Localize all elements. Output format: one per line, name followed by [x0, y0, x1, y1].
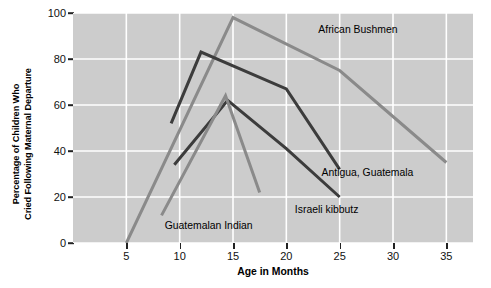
- x-axis-tick-mark: [340, 243, 342, 249]
- y-axis-tick-label: 40: [40, 145, 66, 157]
- vertical-gridlines: [126, 13, 446, 243]
- horizontal-gridlines: [73, 13, 473, 243]
- plot-svg: [73, 13, 473, 243]
- y-axis-tick-label: 0: [40, 237, 66, 249]
- y-axis-tick-label: 60: [40, 99, 66, 111]
- y-axis-tick-label: 80: [40, 53, 66, 65]
- x-axis-tick-mark: [286, 243, 288, 249]
- series-label: Guatemalan Indian: [165, 220, 253, 231]
- y-axis-title-line-1: Percentage of Children Who: [11, 68, 23, 220]
- x-axis-tick-label: 10: [165, 250, 195, 262]
- x-axis-tick-label: 25: [325, 250, 355, 262]
- y-axis-tick-label: 20: [40, 191, 66, 203]
- y-axis-tick-labels: 020406080100: [36, 0, 66, 288]
- series-label: Israeli kibbutz: [295, 204, 359, 215]
- x-axis-tick-mark: [393, 243, 395, 249]
- x-axis-tick-label: 35: [431, 250, 461, 262]
- series-label: Antigua, Guatemala: [322, 167, 414, 178]
- x-axis-title: Age in Months: [73, 266, 473, 277]
- x-axis-tick-mark: [180, 243, 182, 249]
- x-axis-tick-mark: [446, 243, 448, 249]
- x-axis-tick-label: 15: [218, 250, 248, 262]
- x-axis-tick-mark: [233, 243, 235, 249]
- x-axis-tick-label: 30: [378, 250, 408, 262]
- y-axis-title-line-2: Cried Following Maternal Departure: [23, 68, 35, 220]
- x-axis-tick-mark: [126, 243, 128, 249]
- x-axis-tick-label: 5: [111, 250, 141, 262]
- x-axis-tick-label: 20: [271, 250, 301, 262]
- y-axis-tick-label: 100: [40, 7, 66, 19]
- chart-figure: Percentage of Children Who Cried Followi…: [0, 0, 491, 288]
- plot-area: [73, 13, 473, 243]
- series-label: African Bushmen: [318, 24, 397, 35]
